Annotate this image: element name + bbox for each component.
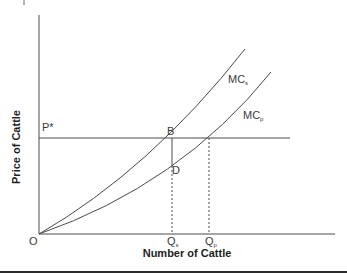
point-label-d: D [172, 165, 180, 176]
bottom-rule [0, 271, 347, 273]
curve-mc-p [39, 72, 271, 234]
curve-mc-s [39, 49, 245, 234]
y-axis-title: Price of Cattle [10, 110, 22, 184]
curve-label-mc-s: MCs [228, 74, 248, 86]
curve-label-mc-p: MCp [243, 110, 263, 122]
origin-label: O [29, 236, 38, 247]
diagram-canvas [0, 0, 347, 274]
point-label-b: B [167, 126, 174, 137]
x-axis-title: Number of Cattle [143, 247, 232, 259]
price-label-pstar: P* [42, 122, 54, 133]
